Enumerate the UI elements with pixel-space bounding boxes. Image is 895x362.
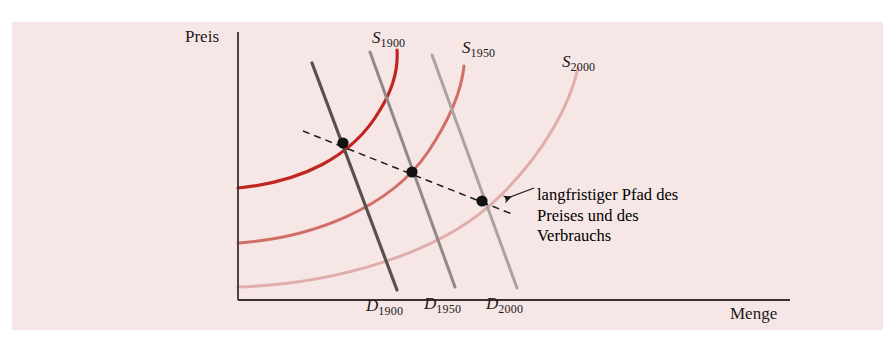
equilibrium-1950: [406, 166, 417, 177]
supply-curve-label-2000: S2000: [562, 52, 595, 72]
supply-label-year-1900: 1900: [381, 36, 406, 50]
demand-curve-1900: [312, 63, 397, 290]
supply-curve-label-1950: S1950: [462, 38, 495, 58]
demand-curve-label-1950: D1950: [424, 294, 461, 314]
supply-label-symbol-1900: S: [372, 28, 381, 47]
demand-label-year-2000: 2000: [498, 302, 523, 316]
demand-curve-label-2000: D2000: [486, 294, 523, 314]
figure-container: Preis Menge langfristiger Pfad des Preis…: [0, 0, 895, 362]
long-run-path-annotation: langfristiger Pfad des Preises und des V…: [537, 185, 678, 247]
demand-curve-label-1900: D1900: [366, 296, 403, 316]
supply-label-year-2000: 2000: [571, 60, 596, 74]
demand-label-year-1900: 1900: [378, 304, 403, 318]
annotation-line-3: Verbrauchs: [537, 226, 678, 247]
demand-label-symbol-1900: D: [366, 296, 378, 315]
supply-curve-1900: [238, 50, 397, 188]
supply-curve-label-1900: S1900: [372, 28, 405, 48]
y-axis-label: Preis: [185, 27, 219, 47]
annotation-leader-arrow-icon: [505, 188, 534, 199]
annotation-line-2: Preises und des: [537, 206, 678, 227]
equilibrium-2000: [476, 195, 487, 206]
annotation-line-1: langfristiger Pfad des: [537, 185, 678, 206]
demand-curve-2000: [432, 55, 517, 288]
demand-label-year-1950: 1950: [436, 302, 461, 316]
supply-label-symbol-1950: S: [462, 38, 471, 57]
demand-label-symbol-1950: D: [424, 294, 436, 313]
demand-label-symbol-2000: D: [486, 294, 498, 313]
equilibrium-1900: [337, 137, 348, 148]
supply-label-year-1950: 1950: [471, 46, 496, 60]
x-axis-label: Menge: [730, 304, 777, 324]
supply-label-symbol-2000: S: [562, 52, 571, 71]
